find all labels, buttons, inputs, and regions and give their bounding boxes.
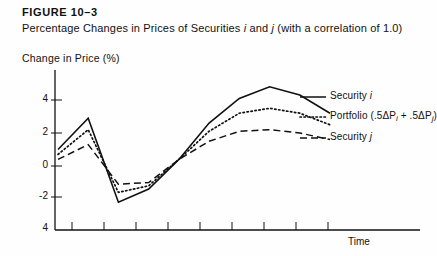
legend-item-portfolio: Portfolio (.5ΔPi + .5ΔPj) — [330, 110, 437, 123]
series-security-j — [58, 130, 330, 185]
legend-item-security-j: Security j — [330, 131, 372, 142]
legend-symbol-j: j — [370, 131, 372, 142]
y-tick-label-neg2: -2 — [26, 190, 48, 201]
legend-item-security-i: Security i — [330, 90, 372, 101]
y-tick-label-2: 2 — [26, 126, 48, 137]
legend-label-1b: + .5ΔP — [398, 110, 432, 121]
x-axis-ticks — [72, 222, 328, 230]
legend-label-0: Security — [330, 90, 370, 101]
legend-label-2: Security — [330, 131, 370, 142]
legend-symbol-i: i — [370, 90, 372, 101]
y-axis-ticks — [51, 100, 62, 197]
legend-label-1c: ) — [434, 110, 437, 121]
y-tick-label-4: 4 — [26, 93, 48, 104]
legend-label-1a: Portfolio (.5ΔP — [330, 110, 396, 121]
x-axis-title: Time — [348, 236, 370, 247]
y-tick-label-0: 0 — [26, 159, 48, 170]
y-tick-label-neg4: 4 — [26, 222, 48, 233]
